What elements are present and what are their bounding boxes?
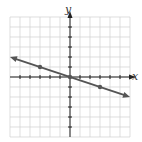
data-point [38, 65, 42, 69]
coordinate-plane: x y [0, 0, 142, 142]
line-arrow-left-icon [10, 56, 18, 62]
y-axis-label: y [64, 3, 72, 16]
data-point [98, 85, 102, 89]
data-point [68, 75, 72, 79]
line-arrow-right-icon [122, 92, 130, 98]
x-axis-label: x [132, 70, 139, 83]
axes [10, 11, 136, 137]
